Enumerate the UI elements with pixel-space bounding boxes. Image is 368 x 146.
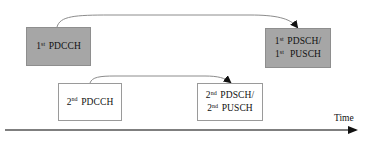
- channel-name: PUSCH: [222, 103, 253, 113]
- box-label-line: 2nd PDSCH/: [206, 89, 254, 102]
- connector-first-pdcch-to-first-pdsch: [57, 15, 297, 27]
- ordinal-suffix: st: [41, 41, 45, 47]
- connector-second-pdcch-to-second-pdsch: [90, 76, 230, 83]
- scheduling-timeline-diagram: 1st PDCCH 1st PDSCH/ 1st PUSCH 2nd PDCCH…: [0, 0, 368, 146]
- ordinal-number: 1: [275, 36, 280, 46]
- channel-name: PDCCH: [49, 41, 81, 51]
- ordinal-suffix: st: [280, 49, 284, 55]
- ordinal-suffix: nd: [212, 103, 218, 109]
- channel-name: PDCCH: [81, 97, 113, 107]
- ordinal-suffix: nd: [211, 90, 217, 96]
- ordinal-suffix: st: [280, 36, 284, 42]
- box-label-line: 1st PUSCH: [275, 48, 321, 61]
- ordinal-number: 2: [206, 90, 211, 100]
- box-label-line: 2nd PDCCH: [67, 96, 114, 109]
- second-pdcch-box: 2nd PDCCH: [58, 83, 122, 121]
- first-pdsch-pusch-box: 1st PDSCH/ 1st PUSCH: [265, 28, 331, 68]
- ordinal-suffix: nd: [71, 96, 77, 102]
- channel-name: PDSCH/: [287, 36, 321, 46]
- box-label-line: 1st PDCCH: [36, 40, 81, 53]
- box-label-line: 1st PDSCH/: [275, 35, 321, 48]
- second-pdsch-pusch-box: 2nd PDSCH/ 2nd PUSCH: [197, 83, 263, 121]
- channel-name: PDSCH/: [220, 90, 254, 100]
- time-axis-label: Time: [334, 113, 354, 124]
- channel-name: PUSCH: [290, 49, 321, 59]
- first-pdcch-box: 1st PDCCH: [26, 27, 91, 66]
- connector-layer: [0, 0, 368, 146]
- box-label-line: 2nd PUSCH: [207, 102, 253, 115]
